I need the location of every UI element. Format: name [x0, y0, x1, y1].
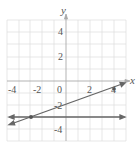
axes [7, 14, 130, 141]
point-marker [112, 87, 116, 91]
y-tick: 2 [58, 51, 63, 62]
x-axis-label: x [129, 74, 135, 86]
arrow-right-icon [120, 115, 125, 119]
y-tick: 4 [58, 26, 63, 37]
x-tick: 0 [57, 84, 62, 95]
y-tick: -4 [54, 124, 62, 135]
grid [7, 20, 126, 141]
y-axis-label: y [60, 4, 66, 16]
slanted-line [9, 83, 125, 125]
x-tick: 2 [87, 84, 92, 95]
intersection-point [29, 115, 33, 119]
arrow-left-icon [9, 115, 14, 119]
arrow-left-icon [9, 121, 15, 125]
x-tick: -2 [33, 84, 41, 95]
coordinate-graph: y x -4 -2 0 2 4 4 2 -2 -4 [0, 0, 138, 154]
arrow-right-icon [120, 83, 125, 87]
x-tick: -4 [8, 84, 16, 95]
